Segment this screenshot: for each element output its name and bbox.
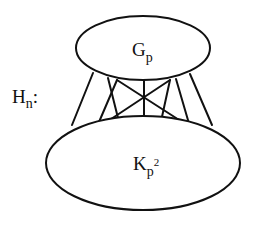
edge-line (72, 73, 93, 125)
edge-line (190, 74, 212, 125)
graph-label: Hn: (12, 86, 38, 111)
graph-diagram: Hn: Gp Kp2 (0, 0, 253, 226)
